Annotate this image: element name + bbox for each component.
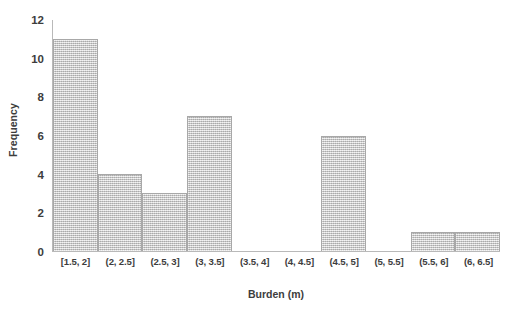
- histogram-chart: Frequency 121086420 [1.5, 2](2, 2.5](2.5…: [0, 0, 514, 313]
- bar[interactable]: [321, 136, 366, 252]
- bar-slot: [321, 20, 366, 251]
- bar[interactable]: [187, 116, 232, 251]
- x-axis-title: Burden (m): [52, 288, 500, 300]
- y-axis-title-label: Frequency: [7, 103, 19, 157]
- y-axis-title: Frequency: [2, 0, 24, 260]
- x-axis-tick-label: [1.5, 2]: [53, 256, 98, 267]
- bar[interactable]: [98, 174, 143, 251]
- y-axis-tick-label: 2: [38, 207, 44, 219]
- x-axis-tick-label: (4.5, 5]: [322, 256, 367, 267]
- x-axis-tick-labels: [1.5, 2](2, 2.5](2.5, 3](3, 3.5](3.5, 4]…: [53, 256, 501, 267]
- x-axis-tick-label: (3, 3.5]: [187, 256, 232, 267]
- bar-slot: [232, 20, 277, 251]
- x-axis-tick-label: (2.5, 3]: [143, 256, 188, 267]
- x-axis-tick-label: (5, 5.5]: [367, 256, 412, 267]
- x-axis-tick-label: (6, 6.5]: [456, 256, 501, 267]
- y-axis-tick-label: 6: [38, 130, 44, 142]
- bar-slot: [142, 20, 187, 251]
- y-axis-tick-label: 12: [31, 14, 44, 26]
- bar[interactable]: [455, 232, 500, 251]
- x-axis-tick-label: (4, 4.5]: [277, 256, 322, 267]
- bar-slot: [366, 20, 411, 251]
- y-axis-tick-labels: 121086420: [22, 20, 48, 252]
- bar[interactable]: [411, 232, 456, 251]
- bar-series: [53, 20, 500, 251]
- x-axis-tick-label: (3.5, 4]: [232, 256, 277, 267]
- y-axis-tick-label: 4: [38, 169, 44, 181]
- bar-slot: [411, 20, 456, 251]
- bar-slot: [277, 20, 322, 251]
- x-axis-tick-label: (5.5, 6]: [411, 256, 456, 267]
- bar[interactable]: [53, 39, 98, 251]
- y-axis-tick-label: 10: [31, 53, 44, 65]
- plot-area: [52, 20, 500, 252]
- bar-slot: [187, 20, 232, 251]
- x-axis-tick-label: (2, 2.5]: [98, 256, 143, 267]
- y-axis-tick-label: 0: [38, 246, 44, 258]
- bar[interactable]: [142, 193, 187, 251]
- bar-slot: [98, 20, 143, 251]
- bar-slot: [53, 20, 98, 251]
- y-axis-tick-label: 8: [38, 91, 44, 103]
- bar-slot: [455, 20, 500, 251]
- x-axis-line: [52, 251, 500, 252]
